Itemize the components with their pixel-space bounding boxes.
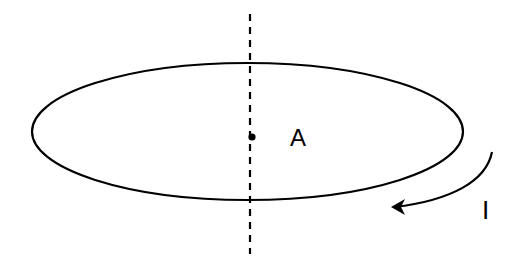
- current-loop: [32, 63, 463, 200]
- current-label: I: [482, 195, 489, 225]
- point-a-label: A: [290, 124, 306, 151]
- point-a-dot: [248, 133, 255, 140]
- current-loop-diagram: A I: [0, 0, 510, 261]
